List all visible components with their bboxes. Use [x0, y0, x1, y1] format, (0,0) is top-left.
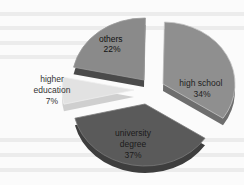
slice-name-higher: higher [40, 74, 64, 84]
pie-chart: high school 34% universitydegree37% high… [0, 0, 244, 185]
slice-value-higher-education: 7% [46, 96, 59, 106]
slice-value-university-degree: 37% [124, 150, 141, 160]
slice-name-education: education [34, 85, 71, 95]
slice-name-high-school: high school [179, 78, 222, 88]
slice-name-degree: degree [120, 139, 147, 149]
slice-value-high-school: 34% [193, 89, 210, 99]
slice-name-university: university [115, 128, 152, 138]
slice-name-others: others [99, 34, 123, 44]
pie-slice-high-school [163, 22, 235, 118]
slice-value-others: 22% [103, 44, 120, 54]
